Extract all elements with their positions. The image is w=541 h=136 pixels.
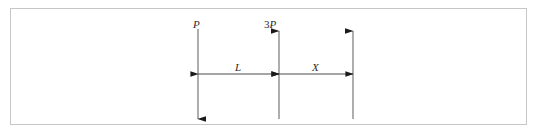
force-label-3p: 3P <box>264 19 276 30</box>
force-label-p: P <box>193 19 200 30</box>
force-label-p-symbol: P <box>193 18 200 30</box>
dimension-label-l: L <box>235 62 241 73</box>
force-label-3p-symbol: P <box>270 18 277 30</box>
dimension-label-x: X <box>312 62 319 73</box>
figure-border-frame: P 3P L X <box>10 8 527 125</box>
